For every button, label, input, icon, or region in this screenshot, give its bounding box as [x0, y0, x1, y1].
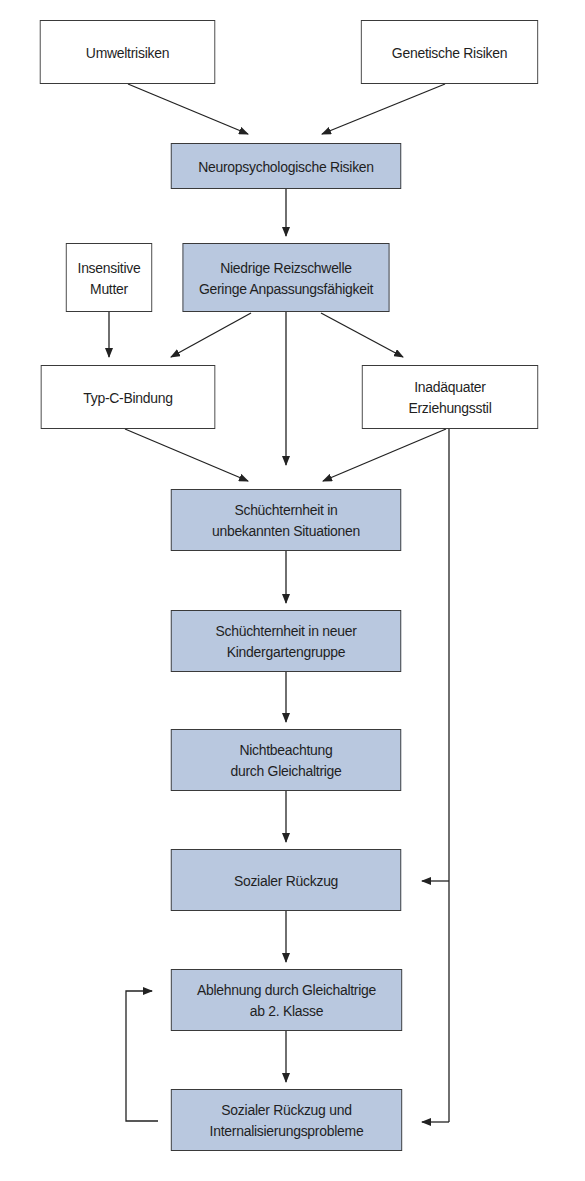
node-nichtbeachtung: Nichtbeachtung durch Gleichaltrige	[171, 729, 401, 791]
node-label: Sozialer Rückzug	[234, 870, 338, 891]
node-insensitive-mutter: Insensitive Mutter	[66, 243, 152, 312]
edge-erziehung-schuechtern1	[323, 429, 446, 481]
edge-typc-schuechtern1	[125, 429, 248, 481]
edge-internalisierung-ablehnung-loop	[126, 991, 158, 1121]
node-schuechternheit-kindergarten: Schüchternheit in neuer Kindergartengrup…	[171, 610, 401, 672]
node-sozialer-rueckzug: Sozialer Rückzug	[171, 849, 401, 911]
node-inadaequater-erziehungsstil: Inadäquater Erziehungsstil	[362, 365, 538, 429]
node-schuechternheit-unbekannt: Schüchternheit in unbekannten Situatione…	[171, 489, 401, 551]
node-label: Neuropsychologische Risiken	[198, 156, 374, 177]
node-umweltrisiken: Umweltrisiken	[40, 20, 216, 84]
node-label: Inadäquater Erziehungsstil	[408, 376, 491, 418]
node-label: Typ-C-Bindung	[83, 387, 173, 408]
edge-genetisch-neuro	[322, 84, 445, 134]
node-label: Genetische Risiken	[392, 42, 507, 63]
node-ablehnung: Ablehnung durch Gleichaltrige ab 2. Klas…	[171, 969, 402, 1031]
edge-reizschwelle-erziehung	[321, 313, 403, 357]
node-internalisierungsprobleme: Sozialer Rückzug und Internalisierungspr…	[171, 1089, 402, 1151]
node-genetische-risiken: Genetische Risiken	[361, 20, 538, 84]
node-typ-c-bindung: Typ-C-Bindung	[41, 365, 216, 429]
node-label: Nichtbeachtung durch Gleichaltrige	[230, 739, 341, 781]
node-label: Ablehnung durch Gleichaltrige ab 2. Klas…	[197, 979, 376, 1021]
node-niedrige-reizschwelle: Niedrige Reizschwelle Geringe Anpassungs…	[183, 243, 390, 312]
node-label: Niedrige Reizschwelle Geringe Anpassungs…	[199, 257, 373, 299]
node-label: Schüchternheit in neuer Kindergartengrup…	[215, 620, 356, 662]
node-neuropsychologische-risiken: Neuropsychologische Risiken	[171, 143, 401, 189]
edge-umwelt-neuro	[128, 84, 248, 134]
node-label: Umweltrisiken	[86, 42, 169, 63]
node-label: Schüchternheit in unbekannten Situatione…	[212, 499, 360, 541]
node-label: Sozialer Rückzug und Internalisierungspr…	[210, 1099, 364, 1141]
edge-reizschwelle-typc	[171, 313, 251, 357]
node-label: Insensitive Mutter	[78, 257, 141, 299]
